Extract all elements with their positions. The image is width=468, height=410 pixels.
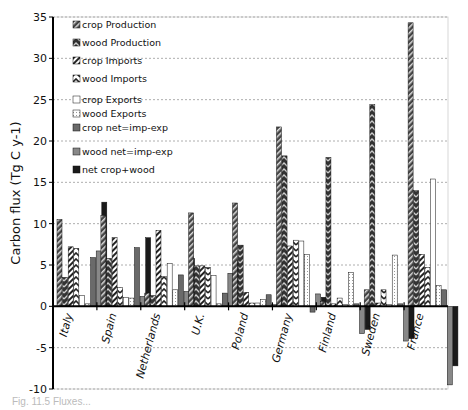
bar [370,105,375,307]
bar [337,298,342,306]
x-category-label: Poland [229,311,251,351]
legend-swatch [73,148,80,155]
legend: crop Productionwood Productioncrop Impor… [73,19,173,175]
legend-swatch [73,21,80,28]
bar [106,258,111,306]
legend-swatch [73,166,80,173]
bar [123,297,128,306]
legend-label: net crop+wood [82,164,155,175]
bar [381,290,386,307]
x-category-label: U.K. [189,312,207,337]
bar [74,248,79,306]
bar [96,251,101,306]
bar [150,296,155,307]
legend-swatch [73,75,80,82]
legend-swatch [73,57,80,64]
bar [134,248,139,307]
legend-label: crop Exports [82,94,142,105]
bar [436,286,441,307]
legend-label: crop net=imp-exp [82,122,168,133]
y-axis-label: Carbon flux (Tg C y-1) [8,121,23,264]
bar [101,215,106,306]
y-tick-label: 25 [33,94,47,107]
bar [162,277,167,307]
x-category-label: Germany [269,311,295,364]
bar [431,179,436,306]
bar [299,241,304,306]
bar [282,156,287,306]
bar [425,267,430,306]
bar [392,255,397,306]
bar [244,292,249,306]
bar [118,287,123,306]
bar [326,158,331,307]
y-tick-label: 5 [40,259,47,272]
legend-label: crop Production [82,19,156,30]
bar [447,306,452,385]
bar [200,266,205,307]
y-tick-label: 30 [33,52,47,65]
bar [222,293,227,306]
x-category-label: Netherlands [134,311,164,379]
legend-swatch [73,39,80,46]
bar-chart: -10-505101520253035Carbon flux (Tg C y-1… [0,0,468,395]
x-category-label: Finland [316,311,339,354]
bar [156,230,161,306]
bar [453,306,458,366]
y-tick-label: 35 [33,11,47,24]
y-tick-label: 15 [33,176,47,189]
bar [189,213,194,306]
y-tick-label: -10 [29,383,47,395]
legend-swatch [73,96,80,103]
bar [288,246,293,306]
legend-label: wood Production [82,37,161,48]
bar [112,238,117,307]
bar [348,272,353,306]
bar [228,273,233,306]
bar [238,245,243,306]
bar [173,290,178,307]
legend-label: wood Imports [82,73,147,84]
bar [79,296,84,307]
bar [419,254,424,306]
y-tick-label: -5 [36,342,47,355]
x-category-label: Spain [99,312,120,345]
axes: -10-505101520253035Carbon flux (Tg C y-1… [8,11,448,395]
bar [414,191,419,307]
bar [408,23,413,307]
bar [211,276,216,307]
bar [205,267,210,306]
bar [63,277,68,306]
y-tick-label: 10 [33,218,47,231]
legend-label: wood net=imp-exp [82,146,173,157]
bar [266,295,271,307]
bar [360,306,365,333]
bar [293,240,298,306]
legend-label: crop Imports [82,55,142,66]
bar [178,275,183,306]
bar [442,290,447,307]
bar [304,254,309,306]
bar [233,203,238,306]
figure-caption: Fig. 11.5 Fluxes... [12,396,91,407]
bar [129,298,134,306]
legend-label: wood Exports [82,108,147,119]
bar [68,247,73,307]
bar [364,290,369,307]
bar [194,266,199,307]
bar [167,263,172,306]
legend-swatch [73,110,80,117]
x-category-label: Italy [57,311,76,338]
bar [145,293,150,306]
bar [276,127,281,306]
bar [57,220,62,307]
bar [91,258,96,307]
y-tick-label: 0 [40,300,47,313]
legend-swatch [73,124,80,131]
y-tick-label: 20 [33,135,47,148]
